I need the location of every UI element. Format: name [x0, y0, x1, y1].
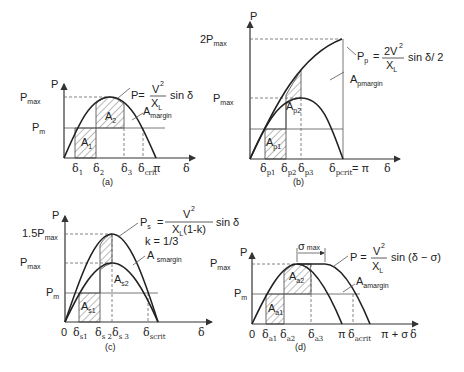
pm-label: Pm — [234, 287, 247, 301]
tick-delta2: δ2 — [93, 162, 104, 177]
equation-d: P = V 2 XL sin (δ − σ) — [350, 242, 441, 274]
p-axis-label: P — [240, 246, 247, 258]
as2-label: As2 — [114, 273, 129, 287]
tick-deltas2: δs 2 — [95, 326, 112, 341]
2pmax-label: 2Pmax — [200, 33, 227, 47]
svg-text:sin δ: sin δ — [216, 216, 239, 228]
equation-a: P= V 2 XL sin δ — [131, 80, 193, 111]
svg-text:XL: XL — [386, 59, 397, 73]
x-axis-label: δ — [198, 326, 205, 339]
tick-deltap3: δp3 — [298, 162, 314, 177]
svg-text:XL: XL — [372, 260, 383, 274]
tick-pi: = π — [352, 162, 369, 174]
tick-deltascrit: δscrit — [143, 326, 166, 341]
power-angle-figure: P Pmax Pm A1 A2 Amargin P= V 2 XL sin δ … — [0, 0, 464, 372]
tick-pi-plus-sigma: π + σ — [381, 328, 408, 340]
pmax-label: Pmax — [20, 256, 41, 270]
caption-c: (c) — [105, 342, 116, 352]
panel-d: σmax P Pmax Pm Aa1 Aa2 Aamargin P = V 2 … — [210, 240, 441, 352]
1.5pmax-label: 1.5Pmax — [22, 227, 58, 241]
svg-text:2V: 2V — [384, 45, 398, 57]
svg-text:Ps: Ps — [140, 216, 151, 230]
tick-deltas1: δs1 — [73, 326, 88, 341]
ap2-label: Ap2 — [286, 100, 301, 115]
svg-text:2: 2 — [191, 205, 195, 212]
p-axis-label: P — [250, 10, 257, 22]
tick-deltaa1: δa1 — [262, 328, 277, 343]
svg-text:sin (δ − σ): sin (δ − σ) — [391, 251, 441, 263]
tick-deltaa3: δa3 — [308, 328, 323, 343]
panel-c: P 1.5Pmax Pmax Pm As1 As2 A smargin k = … — [20, 205, 239, 352]
tick-deltaacrit: δacrit — [348, 328, 371, 343]
eq-leader — [347, 47, 356, 55]
tick-deltaa2: δa2 — [280, 328, 295, 343]
pm-label: Pm — [46, 286, 59, 300]
x-axis-label: δ — [384, 162, 391, 175]
svg-text:=: = — [373, 50, 379, 62]
eq-leader — [118, 88, 130, 98]
x-axis-label: δ — [183, 162, 190, 175]
svg-text:V: V — [152, 83, 160, 95]
svg-text:2: 2 — [381, 242, 385, 249]
eq-leader — [118, 223, 138, 237]
svg-text:P =: P = — [350, 251, 367, 263]
svg-text:sin δ/ 2: sin δ/ 2 — [408, 51, 443, 63]
eq-leader — [334, 256, 348, 266]
svg-text:V: V — [183, 208, 191, 220]
svg-text:Pp: Pp — [357, 50, 368, 65]
p-axis-label: P — [52, 209, 59, 221]
tick-delta3: δ3 — [121, 162, 132, 177]
equation-c: Ps = V 2 XL(1-k) sin δ — [140, 205, 239, 237]
svg-text:sin δ: sin δ — [170, 89, 193, 101]
equation-b: Pp = 2V 2 XL sin δ/ 2 — [357, 42, 443, 73]
x-axis-label: δ — [410, 328, 417, 341]
tick-zero: 0 — [61, 326, 67, 338]
svg-text:2: 2 — [399, 42, 403, 49]
svg-text:XL(1-k): XL(1-k) — [172, 223, 206, 237]
p-axis-label: P — [51, 78, 58, 90]
tick-pi: π — [338, 328, 346, 340]
pm-label: Pm — [32, 121, 45, 135]
tick-delta1: δ1 — [72, 162, 83, 177]
tick-pi: π — [153, 162, 161, 174]
svg-text:XL: XL — [151, 97, 162, 111]
svg-text:=: = — [157, 216, 163, 228]
panel-b: P 2Pmax Pmax Ap1 Ap2 Apmargin Pp = 2V 2 … — [200, 10, 443, 187]
svg-text:2: 2 — [160, 80, 164, 87]
caption-d: (d) — [295, 342, 306, 352]
svg-text:P=: P= — [131, 89, 145, 101]
margin-leader — [330, 72, 344, 80]
tick-deltapcrit: δpcrit — [329, 162, 353, 177]
k-parameter: k = 1/3 — [145, 235, 178, 247]
panel-a: P Pmax Pm A1 A2 Amargin P= V 2 XL sin δ … — [20, 78, 195, 187]
pmax-label: Pmax — [20, 91, 41, 105]
asmargin-label: A smargin — [147, 249, 182, 264]
caption-a: (a) — [102, 177, 113, 187]
tick-deltap1: δp1 — [260, 162, 276, 177]
aamargin-label: Aamargin — [356, 275, 389, 290]
caption-b: (b) — [293, 177, 304, 187]
svg-text:V: V — [373, 245, 381, 257]
apmargin-label: Apmargin — [350, 73, 383, 88]
tick-deltap2: δp2 — [281, 162, 297, 177]
tick-deltas3: δs 3 — [112, 326, 129, 341]
pmax-label: Pmax — [210, 257, 231, 271]
tick-zero: 0 — [249, 328, 255, 340]
sigma-max-label: σmax — [298, 240, 321, 252]
pmax-label: Pmax — [213, 92, 234, 106]
